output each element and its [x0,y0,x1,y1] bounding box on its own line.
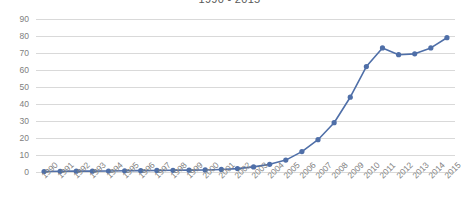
y-axis: 0102030405060708090 [0,12,32,180]
data-point-marker [412,51,417,56]
data-point-marker [332,120,337,125]
data-point-marker [348,95,353,100]
y-axis-tick-label: 80 [20,32,29,41]
y-axis-tick-label: 90 [20,15,29,24]
data-point-marker [283,158,288,163]
y-axis-tick-label: 0 [24,168,29,177]
y-axis-tick-label: 20 [20,134,29,143]
x-axis: 1990199119921993199419951996199719981999… [36,174,455,214]
y-axis-tick-label: 50 [20,83,29,92]
y-axis-tick-label: 10 [20,151,29,160]
series-markers [41,35,449,174]
y-axis-tick-label: 40 [20,100,29,109]
data-point-marker [380,45,385,50]
data-point-marker [428,45,433,50]
plot-area [36,19,455,172]
series-line [44,38,447,172]
y-axis-tick-label: 60 [20,66,29,75]
data-point-marker [299,149,304,154]
data-point-marker [444,35,449,40]
data-point-marker [364,64,369,69]
y-axis-tick-label: 70 [20,49,29,58]
chart-title: 1990 - 2015 [0,0,459,5]
data-point-marker [315,137,320,142]
data-series [36,19,455,172]
y-axis-tick-label: 30 [20,117,29,126]
data-point-marker [396,52,401,57]
